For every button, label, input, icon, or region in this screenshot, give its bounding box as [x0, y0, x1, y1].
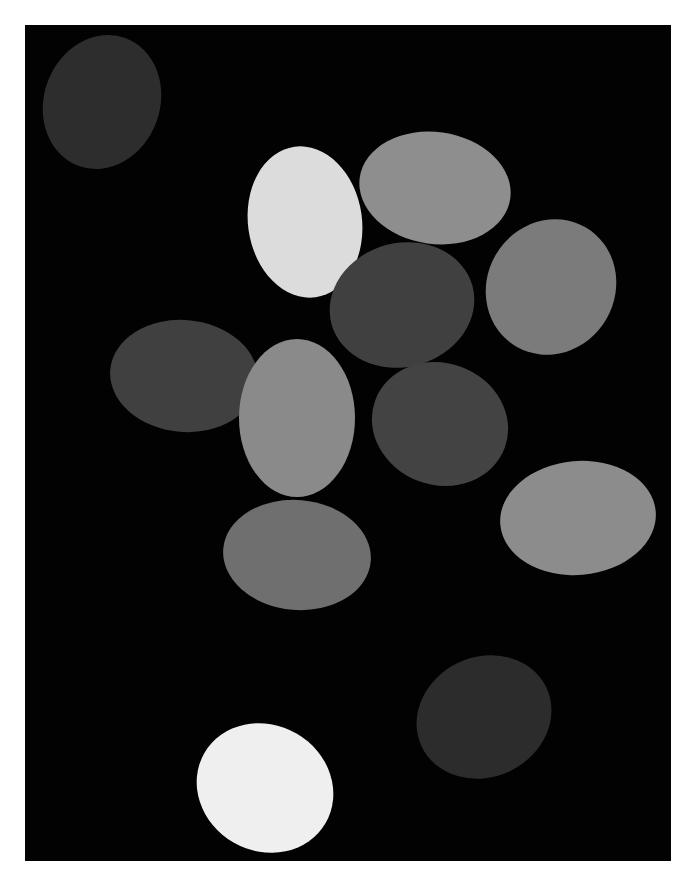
egg-center-gray [239, 339, 355, 497]
